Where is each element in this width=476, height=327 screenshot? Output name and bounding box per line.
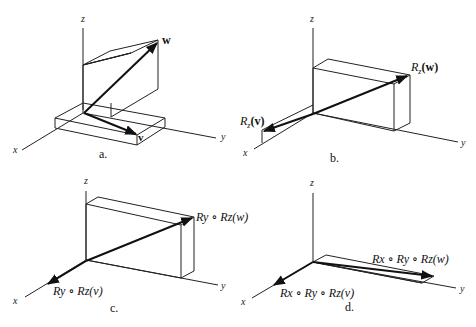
panel-d: z x y Rx ∘ Ry ∘ Rz(w) Rx ∘ Ry ∘ Rz(v) d. [240, 177, 465, 314]
y-axis [83, 113, 216, 138]
x-axis-label: x [12, 295, 18, 306]
x-axis-label: x [12, 144, 18, 155]
vector-ry-rz-w [86, 218, 192, 261]
vector-ry-rz-v [48, 261, 86, 284]
z-axis-label: z [80, 13, 85, 24]
vector-rz-w-label: Rz(w) [410, 60, 438, 76]
y-axis-label: y [220, 131, 226, 142]
panel-c: z x y Ry ∘ Rz(w) Ry ∘ Rz(v) c. [12, 175, 248, 315]
rotation-diagram: z x y w v a. z [0, 0, 476, 327]
vector-v-label: v [138, 131, 144, 143]
vector-rz-v-label: Rz(v) [239, 114, 264, 130]
vector-rz-w [313, 76, 407, 114]
panel-a: z x y w v a. [12, 13, 226, 161]
x-axis-label: x [242, 147, 248, 158]
panel-b-caption: b. [330, 151, 339, 165]
vector-rx-ry-rz-v-label: Rx ∘ Ry ∘ Rz(v) [279, 286, 354, 300]
panel-a-caption: a. [99, 147, 107, 161]
panel-d-caption: d. [345, 300, 354, 314]
vector-w-label: w [162, 33, 171, 47]
x-axis-label: x [240, 296, 246, 307]
z-axis-label: z [309, 13, 314, 24]
vector-ry-rz-v-label: Ry ∘ Rz(v) [52, 284, 103, 298]
panel-c-caption: c. [110, 301, 118, 315]
vector-ry-rz-w-label: Ry ∘ Rz(w) [195, 210, 248, 224]
y-axis-label: y [459, 283, 465, 294]
vector-v [84, 113, 136, 134]
z-axis-label: z [83, 175, 88, 186]
box [86, 197, 194, 278]
vector-rx-ry-rz-v [274, 262, 313, 285]
z-axis-label: z [309, 177, 314, 188]
y-axis-label: y [460, 137, 466, 148]
panel-b: z x y Rz(w) Rz(v) b. [239, 13, 466, 165]
vector-w [84, 43, 157, 113]
vector-rx-ry-rz-w-label: Rx ∘ Ry ∘ Rz(w) [371, 252, 449, 266]
y-axis-label: y [220, 280, 226, 291]
